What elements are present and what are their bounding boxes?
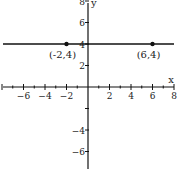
y-tick-label: 2 xyxy=(79,61,85,71)
point-label: (-2,4) xyxy=(49,49,76,60)
x-tick-label: −6 xyxy=(17,91,31,101)
coordinate-plane: −6−4−224688642−4−6−8yx(-2,4)(6,4) xyxy=(0,0,178,169)
x-tick-label: 8 xyxy=(171,91,177,101)
y-tick-label: 6 xyxy=(79,18,85,28)
x-tick-label: −4 xyxy=(38,91,52,101)
data-point xyxy=(150,42,154,46)
x-tick-label: −2 xyxy=(60,91,73,101)
x-axis-label: x xyxy=(168,74,174,85)
y-tick-label: −4 xyxy=(72,126,86,136)
data-point xyxy=(64,42,68,46)
y-tick-label: −8 xyxy=(72,169,86,170)
y-axis-label: y xyxy=(90,0,97,8)
point-label: (6,4) xyxy=(137,49,161,60)
y-tick-label: −6 xyxy=(72,147,86,157)
x-tick-label: 2 xyxy=(107,91,113,101)
y-tick-label: 8 xyxy=(79,0,85,7)
x-tick-label: 4 xyxy=(128,91,134,101)
x-tick-label: 6 xyxy=(150,91,156,101)
